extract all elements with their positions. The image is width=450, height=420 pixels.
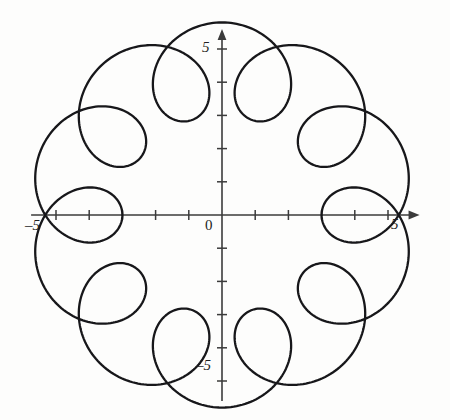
y-axis-arrowhead xyxy=(218,29,227,40)
y-axis-label-negative: –5 xyxy=(196,358,211,373)
y-axis-label-positive: 5 xyxy=(202,40,210,55)
plot-figure: 5 –5 5 –5 0 xyxy=(0,0,450,420)
x-axis-label-negative: –5 xyxy=(25,218,40,233)
plot-canvas xyxy=(0,0,450,420)
x-axis-label-positive: 5 xyxy=(391,217,399,232)
origin-label: 0 xyxy=(205,218,213,233)
x-axis-arrowhead xyxy=(409,211,420,220)
